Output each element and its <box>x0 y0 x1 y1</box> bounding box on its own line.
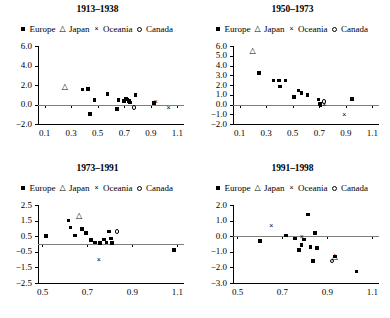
x-axis-line <box>233 124 379 125</box>
x-axis-line <box>38 283 184 284</box>
data-point-europe <box>272 79 276 83</box>
x-axis-line <box>233 283 379 284</box>
data-point-europe <box>117 98 121 102</box>
legend-marker-x-icon: × <box>288 184 296 192</box>
data-point-europe <box>105 241 109 245</box>
data-point-europe <box>300 243 304 247</box>
y-tick <box>35 267 38 268</box>
x-tick-label: 1.1 <box>358 129 386 138</box>
data-point-europe <box>257 71 261 75</box>
x-tick-label: 0.1 <box>31 129 59 138</box>
x-axis-line <box>38 124 184 125</box>
y-tick-label: 1.0 <box>193 90 227 99</box>
chart-legend: Europe△Japan×OceaniaCanada <box>195 24 390 34</box>
legend-entry-europe: Europe <box>19 24 56 34</box>
legend-entry-oceania: ×Oceania <box>93 24 133 34</box>
y-tick <box>230 283 233 284</box>
data-point-oceania: × <box>97 256 101 263</box>
legend-marker-circle-icon <box>330 184 338 192</box>
chart-title: 1913–1938 <box>0 4 195 14</box>
legend-marker-square-icon <box>19 184 27 192</box>
data-point-europe <box>309 245 313 249</box>
x-tick-label: 0.5 <box>84 129 112 138</box>
data-point-europe <box>67 219 71 223</box>
legend-label: Canada <box>341 183 368 193</box>
legend-marker-triangle-icon: △ <box>254 184 262 192</box>
y-tick <box>35 236 38 237</box>
x-tick-label: 0.3 <box>57 129 85 138</box>
data-point-japan: △ <box>76 212 82 220</box>
y-tick <box>230 56 233 57</box>
data-point-europe <box>284 234 288 238</box>
x-tick-label: 0.9 <box>118 288 146 297</box>
y-tick <box>35 252 38 253</box>
data-point-europe <box>128 101 132 105</box>
y-tick-label: −2.0 <box>193 263 227 272</box>
chart-title: 1973–1991 <box>0 163 195 173</box>
chart-legend: Europe△Japan×OceaniaCanada <box>0 183 195 193</box>
y-tick <box>35 66 38 67</box>
x-tick-label: 0.7 <box>268 288 296 297</box>
legend-entry-oceania: ×Oceania <box>288 24 328 34</box>
chart-panel-1950-1973: 1950–1973Europe△Japan×OceaniaCanada−2.0−… <box>195 0 390 159</box>
data-point-europe <box>84 231 88 235</box>
legend-entry-canada: Canada <box>330 24 368 34</box>
chart-panel-1913-1938: 1913–1938Europe△Japan×OceaniaCanada−2.00… <box>0 0 195 159</box>
data-point-europe <box>306 93 310 97</box>
data-point-canada <box>132 105 136 109</box>
data-point-oceania: × <box>269 222 273 229</box>
y-tick-label: 6.0 <box>0 42 32 51</box>
y-tick-label: 2.5 <box>0 201 32 210</box>
plot-area: −2.0−1.00.01.02.03.04.05.06.00.10.30.50.… <box>233 46 379 124</box>
zero-reference-line <box>233 105 379 106</box>
legend-marker-triangle-icon: △ <box>59 25 67 33</box>
legend-marker-triangle-icon: △ <box>254 25 262 33</box>
data-point-canada <box>330 259 334 263</box>
y-tick-label: −2.0 <box>193 120 227 129</box>
data-point-canada <box>115 229 119 233</box>
chart-legend: Europe△Japan×OceaniaCanada <box>195 183 390 193</box>
y-tick-label: 2.0 <box>193 81 227 90</box>
legend-marker-square-icon <box>214 25 222 33</box>
y-tick <box>230 85 233 86</box>
legend-entry-japan: △Japan <box>254 24 285 34</box>
zero-reference-line <box>38 105 184 106</box>
y-tick <box>230 221 233 222</box>
legend-label: Oceania <box>103 183 132 193</box>
y-tick <box>35 124 38 125</box>
legend-label: Japan <box>264 183 285 193</box>
data-point-europe <box>115 107 119 111</box>
plot-area: −2.00.02.04.06.00.10.30.50.70.91.1△×× <box>38 46 184 124</box>
legend-label: Japan <box>69 183 90 193</box>
x-tick-label: 0.7 <box>110 129 138 138</box>
zero-reference-line <box>233 236 379 237</box>
x-tick-label: 0.3 <box>252 129 280 138</box>
y-tick-label: 0.5 <box>0 232 32 241</box>
y-tick-label: 2.0 <box>193 201 227 210</box>
legend-marker-square-icon <box>214 184 222 192</box>
data-point-europe <box>88 112 92 116</box>
x-tick-label: 1.1 <box>163 288 191 297</box>
legend-entry-oceania: ×Oceania <box>288 183 328 193</box>
legend-label: Europe <box>225 24 251 34</box>
y-tick-label: 4.0 <box>0 61 32 70</box>
x-tick-label: 1.1 <box>358 288 386 297</box>
data-point-europe <box>89 238 93 242</box>
y-tick <box>35 205 38 206</box>
data-point-europe <box>300 91 304 95</box>
x-tick-label: 1.1 <box>163 129 191 138</box>
data-point-europe <box>313 231 317 235</box>
legend-label: Canada <box>146 24 173 34</box>
legend-entry-europe: Europe <box>214 24 251 34</box>
data-point-europe <box>93 98 97 102</box>
y-tick-label: 0.0 <box>193 232 227 241</box>
legend-marker-triangle-icon: △ <box>59 184 67 192</box>
legend-marker-circle-icon <box>135 25 143 33</box>
y-tick <box>230 95 233 96</box>
y-tick <box>230 75 233 76</box>
data-point-europe <box>109 237 113 241</box>
legend-label: Canada <box>146 183 173 193</box>
x-tick-label: 0.9 <box>137 129 165 138</box>
data-point-europe <box>98 241 102 245</box>
plot-area: −2.5−1.5−0.50.51.52.50.50.70.91.1△× <box>38 205 184 283</box>
